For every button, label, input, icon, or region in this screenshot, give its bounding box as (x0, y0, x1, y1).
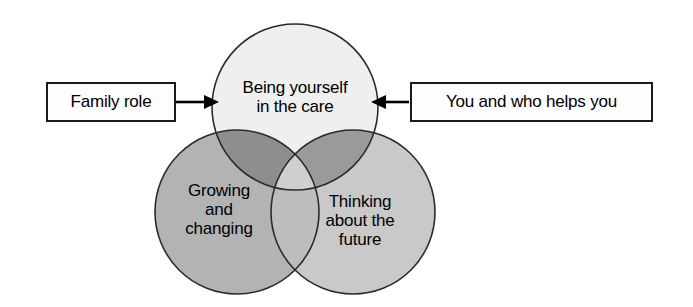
callout-label-family-role: Family role (71, 92, 152, 112)
venn-diagram-graphic (0, 0, 693, 307)
callout-box-family-role: Family role (46, 82, 176, 122)
callout-box-you-and-who-helps-you: You and who helps you (410, 82, 653, 122)
callout-label-you-and-who-helps-you: You and who helps you (446, 92, 617, 112)
venn-diagram-canvas: Being yourself in the care Growing and c… (0, 0, 693, 307)
